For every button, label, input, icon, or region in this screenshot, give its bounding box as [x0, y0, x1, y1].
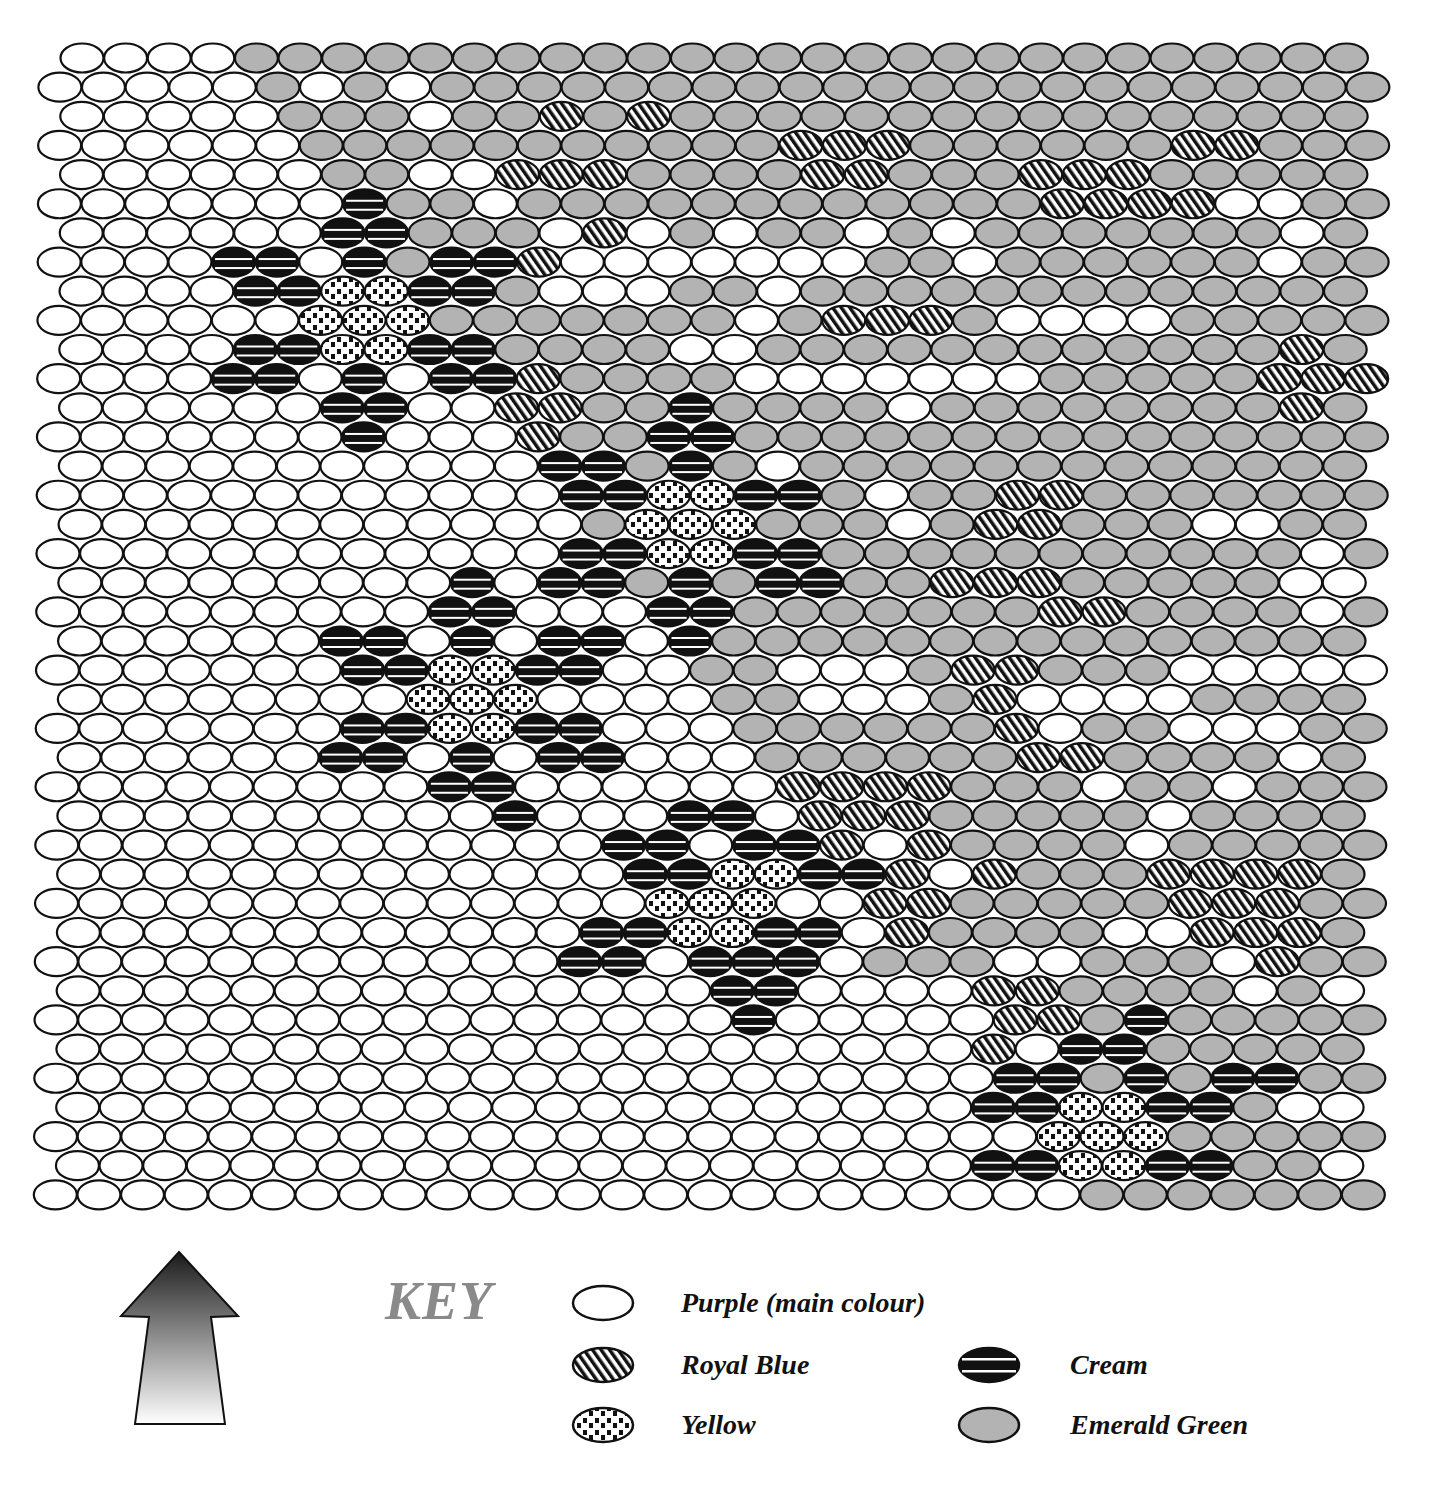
bead-emerald-green — [1277, 976, 1320, 1005]
bead-emerald-green — [1019, 218, 1062, 247]
bead-yellow — [1102, 1151, 1145, 1180]
bead-emerald-green — [995, 597, 1038, 626]
bead-yellow — [625, 510, 668, 539]
bead-purple — [187, 1035, 230, 1064]
bead-purple — [101, 860, 144, 889]
bead-emerald-green — [1193, 218, 1236, 247]
bead-purple — [187, 976, 230, 1005]
bead-purple — [254, 714, 297, 743]
bead-purple — [885, 1035, 928, 1064]
bead-royal-blue — [539, 393, 582, 422]
bead-royal-blue — [1278, 918, 1321, 947]
bead-emerald-green — [865, 422, 908, 451]
bead-royal-blue — [908, 772, 951, 801]
bead-purple — [667, 1093, 710, 1122]
bead-purple — [623, 1093, 666, 1122]
bead-emerald-green — [997, 131, 1040, 160]
bead-purple — [906, 1064, 949, 1093]
bead-purple — [59, 510, 102, 539]
bead-emerald-green — [1279, 685, 1322, 714]
bead-purple — [602, 889, 645, 918]
bead-purple — [147, 102, 190, 131]
bead-purple — [492, 1151, 535, 1180]
bead-cream — [646, 831, 689, 860]
bead-purple — [56, 1035, 99, 1064]
bead-purple — [384, 889, 427, 918]
bead-purple — [168, 306, 211, 335]
bead-purple — [100, 1035, 143, 1064]
bead-purple — [538, 510, 581, 539]
bead-royal-blue — [972, 1035, 1015, 1064]
bead-cream — [277, 335, 320, 364]
bead-cream — [365, 218, 408, 247]
key-label-cream: Cream — [1070, 1349, 1148, 1381]
bead-cream — [734, 539, 777, 568]
bead-purple — [387, 73, 430, 102]
bead-emerald-green — [1211, 1122, 1254, 1151]
bead-emerald-green — [625, 568, 668, 597]
bead-emerald-green — [1080, 1180, 1123, 1209]
bead-yellow — [428, 714, 471, 743]
bead-emerald-green — [973, 918, 1016, 947]
bead-emerald-green — [757, 218, 800, 247]
bead-emerald-green — [1105, 510, 1148, 539]
bead-purple — [384, 831, 427, 860]
bead-purple — [666, 1151, 709, 1180]
bead-cream — [559, 714, 602, 743]
bead-purple — [842, 918, 885, 947]
bead-purple — [188, 860, 231, 889]
bead-emerald-green — [1105, 393, 1148, 422]
bead-purple — [885, 1093, 928, 1122]
bead-emerald-green — [1148, 568, 1191, 597]
bead-emerald-green — [1325, 102, 1368, 131]
bead-royal-blue — [995, 656, 1038, 685]
bead-purple — [561, 248, 604, 277]
bead-yellow — [1059, 1093, 1102, 1122]
bead-purple — [451, 452, 494, 481]
bead-purple — [78, 1064, 121, 1093]
bead-purple — [122, 831, 165, 860]
bead-purple — [754, 1093, 797, 1122]
bead-emerald-green — [1324, 160, 1367, 189]
bead-purple — [146, 568, 189, 597]
bead-purple — [1125, 831, 1168, 860]
bead-emerald-green — [930, 743, 973, 772]
bead-purple — [1104, 685, 1147, 714]
bead-emerald-green — [1040, 248, 1083, 277]
bead-cream — [732, 1005, 775, 1034]
bead-purple — [81, 364, 124, 393]
bead-royal-blue — [627, 102, 670, 131]
bead-purple — [233, 452, 276, 481]
bead-purple — [473, 481, 516, 510]
bead-purple — [450, 860, 493, 889]
bead-emerald-green — [1060, 918, 1103, 947]
bead-purple — [536, 976, 579, 1005]
bead-cream — [755, 918, 798, 947]
bead-emerald-green — [1323, 393, 1366, 422]
bead-emerald-green — [343, 131, 386, 160]
bead-cream — [604, 481, 647, 510]
bead-emerald-green — [822, 422, 865, 451]
bead-purple — [1321, 1093, 1364, 1122]
bead-yellow — [691, 481, 734, 510]
bead-emerald-green — [278, 102, 321, 131]
bead-purple — [80, 597, 123, 626]
bead-purple — [102, 568, 145, 597]
bead-cream — [842, 860, 885, 889]
bead-purple — [646, 656, 689, 685]
bead-emerald-green — [1277, 1035, 1320, 1064]
bead-purple — [735, 364, 778, 393]
bead-emerald-green — [1128, 131, 1171, 160]
bead-emerald-green — [1300, 772, 1343, 801]
bead-purple — [841, 976, 884, 1005]
bead-purple — [212, 189, 255, 218]
bead-emerald-green — [1083, 539, 1126, 568]
bead-emerald-green — [951, 772, 994, 801]
bead-purple — [405, 1151, 448, 1180]
bead-emerald-green — [692, 131, 735, 160]
bead-purple — [581, 685, 624, 714]
bead-emerald-green — [931, 452, 974, 481]
bead-purple — [819, 1005, 862, 1034]
bead-emerald-green — [1215, 248, 1258, 277]
bead-purple — [341, 597, 384, 626]
